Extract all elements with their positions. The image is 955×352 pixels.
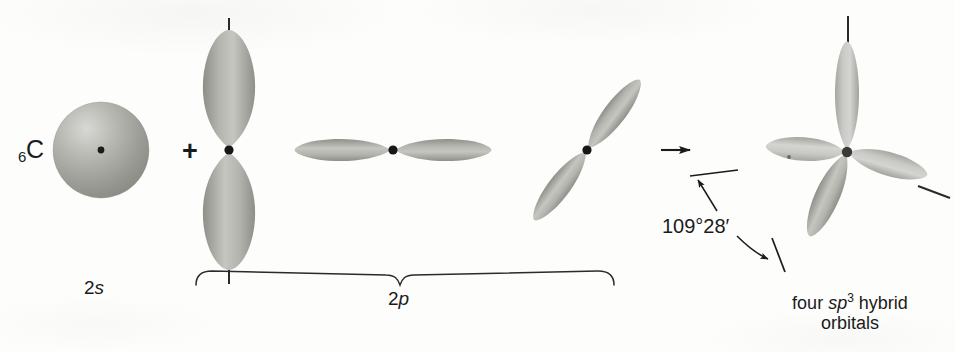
carbon-atomic-number: 6 (18, 148, 26, 165)
caption-suffix: hybrid (854, 293, 908, 313)
orbital-2s-sphere (53, 102, 149, 198)
nucleus-dot-sp3 (842, 147, 852, 157)
carbon-symbol: C (26, 135, 44, 163)
caption-prefix: four (792, 293, 828, 313)
sp3-hybrid-caption: four sp3 hybrid orbitals (762, 292, 938, 333)
nucleus-dot-2p-diagonal (582, 145, 591, 154)
angle-tick-lower (772, 238, 785, 272)
brace-2p (196, 271, 614, 285)
orbital-2p-diagonal (525, 73, 648, 226)
angle-arrow-upper (698, 180, 717, 211)
plus-sign: + (182, 136, 198, 166)
label-2s-subshell: s (95, 277, 105, 298)
bond-angle-label: 109°28′ (662, 215, 729, 237)
orbital-hybridization-figure: 6C + 2s 2p 109°28′ four sp3 hybrid orbit… (0, 0, 955, 352)
speck-dot (787, 155, 791, 159)
orbital-2p-horizontal (295, 139, 492, 161)
nucleus-dot-2p-vertical (224, 145, 233, 154)
angle-arrow-lower (737, 236, 768, 259)
nucleus-dot-2s (98, 147, 105, 154)
caption-exponent: 3 (847, 291, 854, 305)
nucleus-dot-2p-horizontal (388, 145, 397, 154)
angle-tick-upper (690, 170, 738, 176)
sp3-axis-line-right (918, 186, 950, 198)
carbon-element-label: 6C (18, 135, 44, 166)
caption-sp: sp (828, 293, 847, 313)
label-2p-orbital: 2p (388, 288, 409, 309)
label-2s-orbital: 2s (84, 277, 104, 298)
label-2p-subshell: p (399, 288, 410, 309)
label-2p-shell: 2 (388, 288, 399, 309)
label-2s-shell: 2 (84, 277, 95, 298)
orbital-sp3-cluster (765, 16, 950, 241)
orbital-2p-vertical (203, 18, 255, 284)
caption-line2: orbitals (821, 313, 879, 333)
